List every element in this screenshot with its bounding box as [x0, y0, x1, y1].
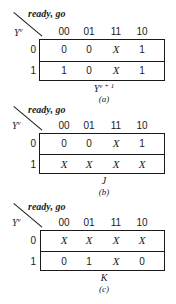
column-header: 01 — [77, 217, 101, 228]
kmap-cell: 1 — [52, 65, 76, 76]
row-divider — [40, 154, 164, 155]
kmap-cell: X — [77, 234, 101, 246]
column-header: 10 — [130, 217, 154, 228]
function-label: Yv + 1 — [84, 82, 124, 94]
row-header: 0 — [26, 138, 36, 149]
row-header: 0 — [26, 235, 36, 246]
kmap-cell: 1 — [130, 44, 154, 55]
column-variables-label: ready, go — [28, 104, 65, 115]
kmap-cell: 0 — [77, 44, 101, 55]
column-header: 11 — [104, 26, 128, 37]
kmap-cell: X — [130, 158, 154, 170]
column-header: 00 — [52, 120, 76, 131]
kmap-cell: X — [77, 158, 101, 170]
row-variable-label: Yv — [12, 119, 21, 131]
row-divider — [40, 61, 164, 62]
kmap-cell: X — [104, 255, 128, 267]
caption: (c) — [84, 284, 124, 294]
function-label: J — [84, 175, 124, 186]
kmap-cell: X — [52, 158, 76, 170]
kmap-cell: X — [104, 137, 128, 149]
kmap-cell: 1 — [130, 138, 154, 149]
column-header: 10 — [130, 120, 154, 131]
kmap-b: ready, go Yv 00 01 11 10 0 1 0 0 X 1 X X… — [0, 94, 176, 198]
kmap-cell: 0 — [52, 44, 76, 55]
column-header: 00 — [52, 217, 76, 228]
kmap-cell: X — [104, 64, 128, 76]
kmap-cell: X — [52, 234, 76, 246]
row-header: 0 — [26, 44, 36, 55]
row-divider — [41, 251, 164, 252]
function-label: K — [84, 272, 124, 283]
kmap-cell: 0 — [77, 138, 101, 149]
row-variable-label: Yv — [14, 26, 23, 38]
kmap-cell: 0 — [130, 256, 154, 267]
column-header: 00 — [52, 26, 76, 37]
column-header: 11 — [104, 120, 128, 131]
kmap-cell: 1 — [77, 256, 101, 267]
row-header: 1 — [26, 65, 36, 76]
column-header: 11 — [104, 217, 128, 228]
kmap-cell: X — [104, 43, 128, 55]
row-variable-label: Yv — [12, 216, 21, 228]
kmap-cell: X — [104, 234, 128, 246]
kmap-cell: 0 — [77, 65, 101, 76]
column-header: 01 — [77, 26, 101, 37]
column-variables-label: ready, go — [28, 8, 65, 19]
kmap-cell: 0 — [52, 138, 76, 149]
row-header: 1 — [26, 256, 36, 267]
row-header: 1 — [26, 159, 36, 170]
column-header: 10 — [130, 26, 154, 37]
kmap-cell: 0 — [52, 256, 76, 267]
kmap-c: ready, go Yv 00 01 11 10 0 1 X X X X 0 1… — [0, 191, 176, 304]
column-variables-label: ready, go — [28, 201, 65, 212]
kmap-cell: X — [130, 234, 154, 246]
kmap-a: ready, go Yv 00 01 11 10 0 1 0 0 X 1 1 0… — [0, 0, 176, 104]
column-header: 01 — [77, 120, 101, 131]
kmap-cell: X — [104, 158, 128, 170]
kmap-cell: 1 — [130, 65, 154, 76]
